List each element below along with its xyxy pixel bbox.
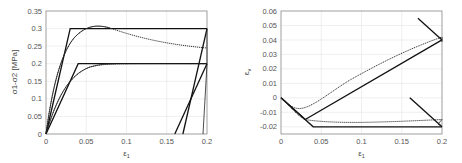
y-tick: 0.02: [262, 64, 277, 73]
x-tick: 0.05: [314, 137, 329, 146]
y-tick: 0.05: [27, 112, 42, 121]
right-x-ticks: 0 0.05 0.1 0.15 0.2: [279, 137, 447, 146]
right-grid: [281, 11, 442, 134]
y-tick: 0.25: [27, 42, 42, 51]
y-tick: 0.03: [262, 50, 277, 59]
left-y-axis-label: σ1-σ2 [MPa]: [10, 50, 19, 95]
y-tick: 0.04: [262, 36, 277, 45]
left-x-axis-label: ε1: [123, 149, 130, 159]
y-tick: 0.06: [262, 7, 277, 16]
right-y-axis-label: εv: [242, 69, 252, 76]
y-tick: -0.01: [260, 108, 277, 117]
x-tick: 0.15: [394, 137, 409, 146]
x-tick: 0.15: [159, 137, 174, 146]
x-tick: 0: [279, 137, 283, 146]
y-tick: 0.35: [27, 7, 42, 16]
x-tick: 0.05: [79, 137, 94, 146]
y-tick: 0.1: [32, 94, 42, 103]
y-tick: 0.2: [32, 59, 42, 68]
y-tick: 0.05: [262, 21, 277, 30]
y-tick: 0.01: [262, 79, 277, 88]
y-tick: 0.3: [32, 24, 42, 33]
left-y-ticks: 0 0.05 0.1 0.15 0.2 0.25 0.3 0.35: [27, 7, 42, 139]
x-tick: 0.2: [437, 137, 447, 146]
right-y-ticks: -0.02 -0.01 0 0.01 0.02 0.03 0.04 0.05 0…: [260, 7, 277, 132]
y-tick: 0: [273, 93, 277, 102]
x-tick: 0.1: [356, 137, 366, 146]
x-tick: 0.1: [121, 137, 131, 146]
series-dilatant-unload: [418, 18, 442, 40]
right-x-axis-label: ε1: [358, 149, 365, 159]
y-tick: 0: [38, 130, 42, 139]
left-x-ticks: 0 0.05 0.1 0.15 0.2: [44, 137, 212, 146]
figure: 0 0.05 0.1 0.15 0.2 0.25 0.3 0.35 0 0.05…: [0, 0, 462, 163]
x-tick: 0.2: [202, 137, 212, 146]
y-tick: -0.02: [260, 122, 277, 131]
right-plot: -0.02 -0.01 0 0.01 0.02 0.03 0.04 0.05 0…: [242, 7, 447, 159]
y-tick: 0.15: [27, 77, 42, 86]
x-tick: 0: [44, 137, 48, 146]
left-plot: 0 0.05 0.1 0.15 0.2 0.25 0.3 0.35 0 0.05…: [10, 7, 212, 159]
